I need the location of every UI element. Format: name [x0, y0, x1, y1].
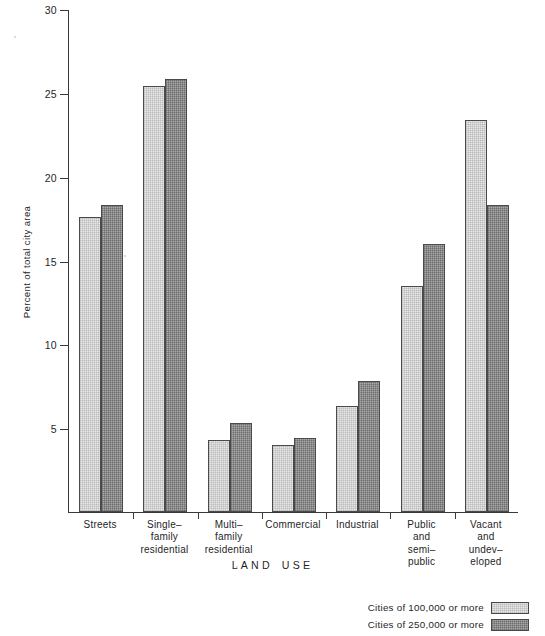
bar [79, 217, 101, 512]
y-axis-tick-label: 25 [45, 88, 57, 100]
bar-chart: Percent of total city area StreetsSingle… [0, 0, 545, 636]
paper-speckle [14, 36, 16, 38]
legend-swatch [491, 602, 529, 614]
bar [208, 440, 230, 512]
y-axis-title: Percent of total city area [21, 206, 32, 319]
legend-item: Cities of 100,000 or more [368, 600, 529, 615]
y-axis-tick-label: 20 [45, 172, 57, 184]
bar [487, 205, 509, 512]
x-axis-category-label-line: Vacant [447, 519, 525, 531]
y-axis-tick [60, 10, 69, 11]
y-axis-tick [60, 178, 69, 179]
x-axis-tick [198, 512, 199, 519]
bar [358, 381, 380, 512]
x-axis-title-word: USE [282, 559, 313, 571]
bar [465, 120, 487, 512]
chart-legend: Cities of 100,000 or moreCities of 250,0… [368, 600, 529, 634]
y-axis-tick-label: 10 [45, 339, 57, 351]
y-axis-tick-label: 15 [45, 256, 57, 268]
plot-area [68, 10, 518, 513]
x-axis-category-label-line: undev– [447, 544, 525, 556]
bar [401, 286, 423, 512]
x-axis-tick [390, 512, 391, 519]
legend-label: Cities of 100,000 or more [368, 602, 484, 613]
x-axis-tick [133, 512, 134, 519]
x-axis-category-label-line: residential [190, 544, 268, 556]
bar [230, 423, 252, 512]
x-axis-tick [326, 512, 327, 519]
bar [101, 205, 123, 512]
x-axis-tick [262, 512, 263, 519]
y-axis-tick [60, 262, 69, 263]
bar [423, 244, 445, 512]
bar [143, 86, 165, 512]
y-axis-tick-label: 5 [51, 423, 57, 435]
y-axis-tick-label: 30 [45, 4, 57, 16]
legend-label: Cities of 250,000 or more [368, 619, 484, 630]
bar [165, 79, 187, 512]
x-axis-title: LANDUSE [0, 559, 545, 571]
x-axis-category-label-line: family [190, 531, 268, 543]
y-axis-tick [60, 94, 69, 95]
bar [336, 406, 358, 512]
x-axis-tick [455, 512, 456, 519]
y-axis-tick [60, 345, 69, 346]
y-axis-tick [60, 429, 69, 430]
x-axis-category-label-line: and [447, 531, 525, 543]
bar [294, 438, 316, 512]
x-axis-title-word: LAND [232, 559, 273, 571]
bar [272, 445, 294, 512]
legend-item: Cities of 250,000 or more [368, 617, 529, 632]
legend-swatch [491, 619, 529, 631]
